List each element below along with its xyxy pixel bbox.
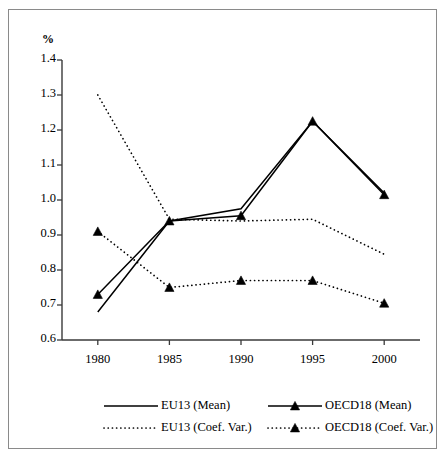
y-tick-label: 1.4 bbox=[14, 51, 56, 66]
series-marker-3 bbox=[165, 283, 174, 292]
legend-item-label: EU13 (Mean) bbox=[161, 398, 230, 413]
series-line-2 bbox=[98, 95, 384, 254]
x-tick-label: 1985 bbox=[139, 352, 199, 367]
y-tick-label: 1.3 bbox=[14, 86, 56, 101]
y-tick-label: 1.0 bbox=[14, 191, 56, 206]
y-tick-label: 1.1 bbox=[14, 156, 56, 171]
legend-item-label: OECD18 (Coef. Var.) bbox=[325, 420, 433, 435]
plot-area bbox=[0, 0, 445, 458]
series-line-3 bbox=[98, 232, 384, 304]
series-marker-1 bbox=[308, 117, 317, 126]
legend-item-label: EU13 (Coef. Var.) bbox=[161, 420, 252, 435]
x-tick-label: 1995 bbox=[283, 352, 343, 367]
chart-figure: % 0.60.70.80.91.01.11.21.31.419801985199… bbox=[0, 0, 445, 458]
y-tick-label: 0.7 bbox=[14, 296, 56, 311]
y-tick-label: 0.9 bbox=[14, 226, 56, 241]
x-tick-label: 1980 bbox=[68, 352, 128, 367]
y-tick-label: 1.2 bbox=[14, 121, 56, 136]
series-marker-3 bbox=[93, 227, 102, 236]
x-tick-label: 1990 bbox=[211, 352, 271, 367]
y-tick-label: 0.6 bbox=[14, 331, 56, 346]
legend-item-label: OECD18 (Mean) bbox=[325, 398, 411, 413]
y-tick-label: 0.8 bbox=[14, 261, 56, 276]
x-tick-label: 2000 bbox=[354, 352, 414, 367]
